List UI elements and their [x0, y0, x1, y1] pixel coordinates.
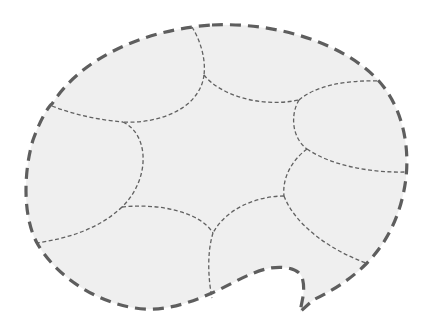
- speech-bubble-diagram: [0, 0, 427, 335]
- speech-bubble-outline: [26, 25, 407, 312]
